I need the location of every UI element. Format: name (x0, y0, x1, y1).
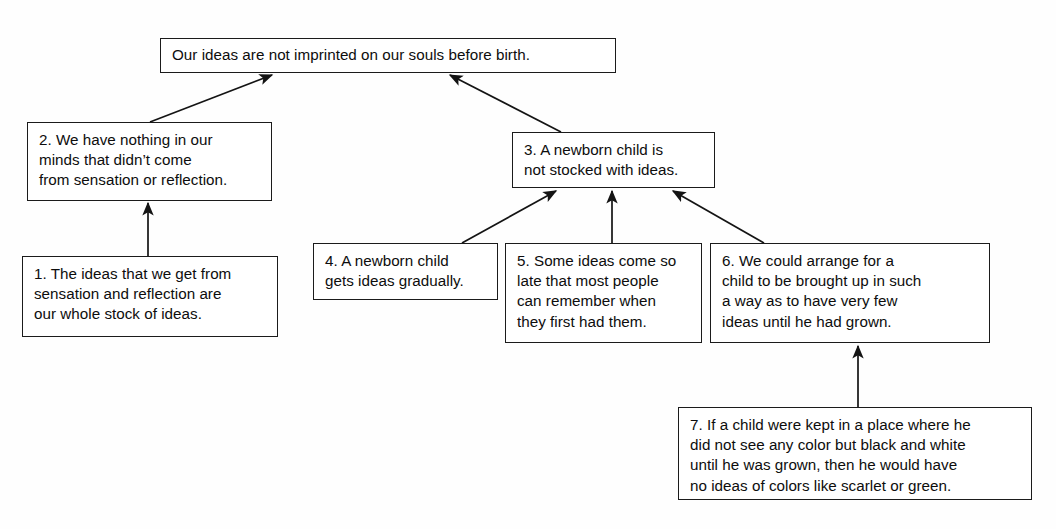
node-premise-4[interactable]: 4. A newborn child gets ideas gradually. (313, 243, 498, 300)
node-conclusion[interactable]: Our ideas are not imprinted on our souls… (160, 38, 616, 73)
arrow-premise-3-to-conclusion (450, 75, 561, 132)
node-premise-7[interactable]: 7. If a child were kept in a place where… (678, 407, 1032, 500)
argument-diagram-page: Our ideas are not imprinted on our souls… (0, 0, 1056, 529)
node-premise-1[interactable]: 1. The ideas that we get from sensation … (22, 256, 278, 337)
node-premise-5[interactable]: 5. Some ideas come so late that most peo… (505, 243, 702, 343)
arrow-premise-2-to-conclusion (150, 75, 272, 122)
arrow-premise-4-to-premise-3 (462, 191, 556, 243)
node-premise-3[interactable]: 3. A newborn child is not stocked with i… (512, 132, 715, 188)
arrow-premise-6-to-premise-3 (673, 191, 764, 243)
node-premise-6[interactable]: 6. We could arrange for a child to be br… (710, 243, 990, 343)
node-premise-2[interactable]: 2. We have nothing in our minds that did… (27, 122, 272, 201)
